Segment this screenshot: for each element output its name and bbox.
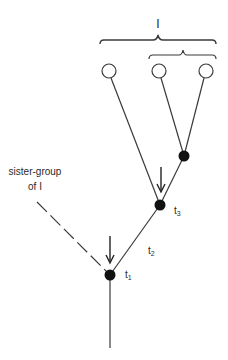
group-i-label: I (156, 17, 159, 31)
subgroup-brace (149, 50, 216, 59)
cladogram-diagram: I t3 t2 t1 sister-group of I (0, 0, 228, 360)
node-label-t1: t1 (125, 269, 132, 281)
sister-group-label-line2: of I (28, 181, 42, 192)
group-i-brace (100, 35, 216, 44)
node-label-t3: t3 (174, 205, 181, 217)
branch-terminal-3 (184, 78, 204, 156)
node-label-t2: t2 (148, 245, 155, 257)
branch-t2 (110, 205, 160, 275)
node-t1 (105, 270, 116, 281)
branch-sister-group-dashed (37, 202, 110, 275)
internal-node-inner (179, 151, 190, 162)
branch-terminal-2 (161, 78, 184, 156)
arrow-down-icon-t1 (106, 236, 114, 263)
terminal-taxon-3 (199, 64, 213, 78)
terminal-taxon-1 (102, 64, 116, 78)
sister-group-label-line1: sister-group (9, 166, 62, 177)
arrow-down-icon-t3 (157, 167, 165, 192)
branch-terminal-1 (111, 78, 160, 205)
terminal-taxon-2 (152, 64, 166, 78)
branch-inner-to-t3 (160, 156, 184, 205)
node-t3 (155, 200, 166, 211)
